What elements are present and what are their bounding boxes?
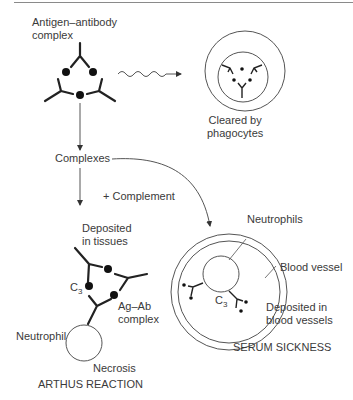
label-deposited-in-tissues: Deposited in tissues — [82, 222, 132, 248]
label-plus-complement: + Complement — [103, 190, 175, 203]
label-neutrophils: Neutrophils — [247, 213, 303, 226]
label-ag-ab-complex: Ag–Ab complex — [118, 300, 159, 326]
label-c3-right: C3 — [215, 294, 227, 311]
blood-vessel-inner — [178, 241, 280, 343]
label-complexes: Complexes — [55, 152, 110, 165]
neutrophil-circle — [66, 325, 102, 361]
label-neutrophil: Neutrophil — [16, 330, 66, 343]
label-necrosis: Necrosis — [93, 362, 136, 375]
phagocyte-inner-circle — [218, 52, 268, 102]
phagocyte-outer-circle — [205, 31, 285, 111]
blood-vessel-outer — [171, 234, 287, 350]
label-arthus-reaction: ARTHUS REACTION — [38, 378, 143, 391]
neutrophils-circle — [203, 256, 239, 292]
label-blood-vessel: Blood vessel — [280, 261, 342, 274]
antigen-dots-icon — [62, 68, 97, 99]
label-c3-left: C3 — [70, 281, 82, 298]
label-serum-sickness: SERUM SICKNESS — [233, 341, 331, 354]
wavy-arrow-icon — [118, 72, 181, 77]
label-cleared-by-phagocytes: Cleared by phagocytes — [207, 114, 263, 140]
label-antigen-antibody-complex: Antigen–antibody complex — [32, 16, 117, 42]
label-deposited-in-blood-vessels: Deposited in blood vessels — [266, 301, 333, 327]
